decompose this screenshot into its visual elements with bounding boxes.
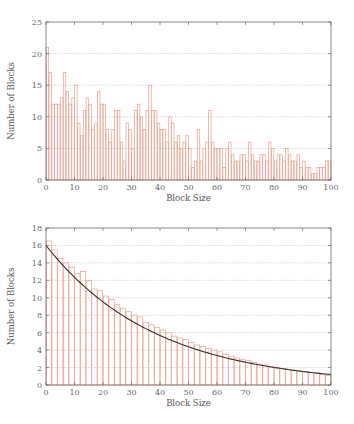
histogram-bar — [126, 123, 128, 180]
x-tick-label: 20 — [98, 388, 108, 397]
histogram-bar — [149, 85, 151, 180]
histogram-bar — [194, 345, 199, 385]
histogram-bar — [326, 161, 328, 180]
x-tick-label: 30 — [126, 388, 136, 397]
histogram-bar — [286, 369, 291, 385]
histogram-bar — [149, 325, 154, 385]
bottom-fitted-histogram-chart: 0102030405060708090100024681012141618Blo… — [0, 212, 354, 424]
y-tick-label: 16 — [32, 241, 42, 250]
histogram-bar — [200, 161, 202, 180]
histogram-bar — [109, 142, 111, 180]
bottom-fitted-histogram-plot: 0102030405060708090100024681012141618Blo… — [0, 212, 354, 424]
histogram-bar — [306, 167, 308, 180]
histogram-bar — [58, 104, 60, 180]
histogram-bar — [217, 148, 219, 180]
y-tick-label: 6 — [37, 329, 42, 338]
histogram-bar — [155, 110, 157, 180]
x-tick-label: 80 — [269, 388, 279, 397]
histogram-bar — [100, 104, 102, 180]
histogram-bar — [303, 161, 305, 180]
histogram-bar — [115, 110, 117, 180]
histogram-bar — [226, 148, 228, 180]
histogram-bar — [112, 129, 114, 180]
histogram-bar — [132, 148, 134, 180]
histogram-bar — [229, 142, 231, 180]
histogram-bar — [163, 129, 165, 180]
histogram-bar — [66, 92, 68, 180]
histogram-bar — [78, 123, 80, 180]
histogram-bar — [183, 142, 185, 180]
histogram-bar — [137, 104, 139, 180]
histogram-bar — [326, 375, 331, 385]
y-tick-label: 18 — [32, 224, 42, 233]
histogram-bar — [146, 110, 148, 180]
histogram-bar — [328, 161, 330, 180]
histogram-bar — [160, 330, 165, 385]
histogram-bar — [300, 167, 302, 180]
histogram-bar — [98, 291, 103, 385]
x-tick-label: 10 — [69, 183, 79, 192]
x-tick-label: 60 — [212, 388, 222, 397]
histogram-bar — [120, 308, 125, 385]
histogram-bar — [280, 155, 282, 180]
histogram-bar — [257, 161, 259, 180]
histogram-bar — [234, 161, 236, 180]
histogram-bar — [98, 92, 100, 180]
histogram-bar — [311, 174, 313, 180]
histogram-bar — [92, 129, 94, 180]
histogram-bar — [135, 110, 137, 180]
histogram-bar — [308, 373, 313, 385]
histogram-bar — [174, 142, 176, 180]
histogram-bar — [123, 161, 125, 180]
histogram-bar — [63, 73, 65, 180]
x-tick-label: 70 — [240, 183, 250, 192]
y-tick-label: 10 — [32, 294, 42, 303]
histogram-bar — [80, 136, 82, 180]
y-tick-label: 4 — [37, 346, 42, 355]
histogram-bar — [115, 305, 120, 385]
histogram-bar — [280, 368, 285, 385]
histogram-bar — [229, 356, 234, 385]
y-axis-title: Number of Blocks — [6, 62, 16, 140]
histogram-bar — [291, 161, 293, 180]
histogram-bar — [189, 148, 191, 180]
histogram-bar — [177, 136, 179, 180]
histogram-bar — [152, 110, 154, 180]
x-tick-label: 30 — [126, 183, 136, 192]
x-tick-label: 40 — [155, 388, 165, 397]
histogram-bar — [89, 104, 91, 180]
histogram-bar — [237, 161, 239, 180]
y-tick-label: 5 — [37, 144, 42, 153]
histogram-bar — [240, 360, 245, 385]
histogram-bar — [80, 272, 85, 385]
y-tick-label: 0 — [37, 381, 42, 390]
histogram-bar — [314, 174, 316, 180]
histogram-bar — [260, 155, 262, 180]
x-tick-label: 100 — [323, 388, 338, 397]
histogram-bar — [58, 259, 63, 385]
histogram-bar — [129, 129, 131, 180]
histogram-bar — [72, 98, 74, 180]
x-tick-label: 50 — [183, 388, 193, 397]
histogram-bar — [277, 155, 279, 180]
histogram-bar — [317, 167, 319, 180]
top-histogram-plot: 01020304050607080901000510152025Block Si… — [0, 0, 354, 212]
histogram-bar — [206, 142, 208, 180]
y-tick-label: 12 — [32, 276, 42, 285]
histogram-bar — [246, 361, 251, 385]
histogram-bar — [103, 104, 105, 180]
histogram-bar — [274, 161, 276, 180]
histogram-bar — [106, 129, 108, 180]
histogram-bar — [288, 155, 290, 180]
histogram-bar — [246, 161, 248, 180]
histogram-bar — [254, 161, 256, 180]
histogram-bar — [266, 161, 268, 180]
y-tick-label: 0 — [37, 176, 42, 185]
histogram-bar — [166, 142, 168, 180]
histogram-bar — [263, 365, 268, 385]
histogram-bar — [231, 155, 233, 180]
histogram-bar — [303, 372, 308, 385]
x-axis-title: Block Size — [166, 398, 211, 408]
histogram-bar — [283, 161, 285, 180]
x-tick-label: 40 — [155, 183, 165, 192]
